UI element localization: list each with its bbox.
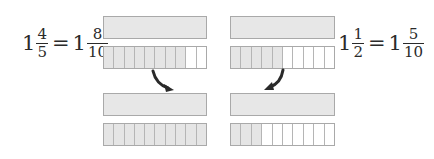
curved-arrow-down-left-icon [264,70,283,90]
curved-arrow-down-right-icon [153,71,174,92]
arrows-layer [0,0,434,159]
